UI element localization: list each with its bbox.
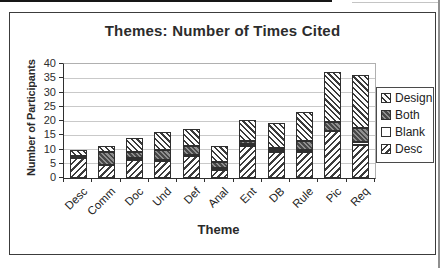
x-tick-label-def: Def bbox=[181, 185, 202, 206]
x-tick-label-comm: Comm bbox=[85, 185, 117, 217]
y-tick-label: 0 bbox=[32, 171, 56, 183]
bar-segment-blank-req bbox=[352, 142, 369, 146]
y-tick-mark bbox=[59, 92, 63, 93]
legend-label-both: Both bbox=[395, 109, 420, 121]
bar-segment-both-anal bbox=[211, 162, 228, 168]
bar-segment-both-rule bbox=[296, 141, 313, 150]
bar-segment-blank-anal bbox=[211, 168, 228, 170]
x-tick-mark bbox=[91, 178, 92, 182]
legend-item-desc: Desc bbox=[381, 143, 433, 155]
legend-label-blank: Blank bbox=[395, 126, 425, 138]
x-tick-label-und: Und bbox=[150, 185, 173, 208]
bar-segment-desc-anal bbox=[211, 170, 228, 178]
legend-label-desc: Desc bbox=[395, 143, 422, 155]
x-tick-mark bbox=[120, 178, 121, 182]
legend-item-design: Design bbox=[381, 92, 433, 104]
bar-segment-both-def bbox=[183, 146, 200, 155]
y-tick-mark bbox=[59, 163, 63, 164]
legend-label-design: Design bbox=[395, 92, 432, 104]
bar-segment-both-pic bbox=[324, 122, 341, 131]
bar-segment-both-req bbox=[352, 128, 369, 142]
y-tick-label: 20 bbox=[32, 114, 56, 126]
y-tick-label: 25 bbox=[32, 100, 56, 112]
bar-segment-desc-und bbox=[154, 161, 171, 178]
bar-segment-design-req bbox=[352, 75, 369, 127]
bar-segment-blank-doc bbox=[126, 158, 143, 160]
bar-segment-desc-pic bbox=[324, 131, 341, 178]
x-tick-mark bbox=[148, 178, 149, 182]
y-tick-label: 35 bbox=[32, 71, 56, 83]
bar-segment-both-und bbox=[154, 150, 171, 161]
x-tick-label-ent: Ent bbox=[238, 185, 259, 206]
bar-segment-design-und bbox=[154, 132, 171, 149]
y-tick-label: 40 bbox=[32, 57, 56, 69]
bar-segment-blank-desc bbox=[70, 156, 87, 158]
y-tick-mark bbox=[59, 134, 63, 135]
x-tick-label-db: DB bbox=[267, 185, 287, 205]
y-tick-mark bbox=[59, 149, 63, 150]
legend: DesignBothBlankDesc bbox=[376, 87, 434, 163]
legend-swatch-blank bbox=[381, 127, 391, 137]
bar-segment-desc-req bbox=[352, 145, 369, 178]
bar-segment-blank-ent bbox=[239, 144, 256, 146]
bar-segment-design-def bbox=[183, 129, 200, 146]
y-tick-label: 30 bbox=[32, 86, 56, 98]
x-tick-mark bbox=[233, 178, 234, 182]
bar-segment-design-db bbox=[268, 123, 285, 147]
x-axis-title: Theme bbox=[63, 222, 374, 237]
scan-artifact-top-right-edge bbox=[352, 2, 440, 3]
x-tick-label-req: Req bbox=[348, 185, 371, 208]
bar-segment-both-db bbox=[268, 148, 285, 151]
x-tick-label-rule: Rule bbox=[290, 185, 315, 210]
bar-segment-design-anal bbox=[211, 146, 228, 162]
bar-segment-design-pic bbox=[324, 72, 341, 123]
y-tick-label: 15 bbox=[32, 128, 56, 140]
x-tick-label-anal: Anal bbox=[206, 185, 231, 210]
bar-segment-desc-def bbox=[183, 156, 200, 178]
chart-figure: Themes: Number of Times Cited Number of … bbox=[9, 12, 436, 255]
bar-segment-design-comm bbox=[98, 146, 115, 153]
bar-segment-design-desc bbox=[70, 150, 87, 157]
chart-title: Themes: Number of Times Cited bbox=[10, 22, 435, 39]
x-tick-mark bbox=[204, 178, 205, 182]
x-tick-mark bbox=[289, 178, 290, 182]
legend-item-both: Both bbox=[381, 109, 433, 121]
x-tick-mark bbox=[317, 178, 318, 182]
bar-segment-design-rule bbox=[296, 112, 313, 141]
x-tick-mark bbox=[63, 178, 64, 182]
bar-segment-desc-desc bbox=[70, 158, 87, 178]
x-tick-label-doc: Doc bbox=[123, 185, 146, 208]
bar-segment-design-doc bbox=[126, 138, 143, 152]
bar-segment-desc-doc bbox=[126, 160, 143, 178]
x-tick-mark bbox=[261, 178, 262, 182]
bar-segment-both-ent bbox=[239, 141, 256, 144]
bar-segment-both-doc bbox=[126, 152, 143, 158]
legend-swatch-desc bbox=[381, 144, 391, 154]
bar-segment-desc-rule bbox=[296, 152, 313, 179]
scan-artifact-top-edge bbox=[0, 0, 332, 2]
bar-segment-blank-rule bbox=[296, 150, 313, 152]
y-tick-mark bbox=[59, 63, 63, 64]
bar-segment-design-ent bbox=[239, 120, 256, 141]
y-tick-mark bbox=[59, 120, 63, 121]
y-tick-mark bbox=[59, 77, 63, 78]
y-tick-label: 5 bbox=[32, 157, 56, 169]
bar-segment-desc-comm bbox=[98, 165, 115, 178]
legend-swatch-both bbox=[381, 110, 391, 120]
bar-segment-desc-ent bbox=[239, 146, 256, 178]
plot-area bbox=[63, 63, 376, 179]
bar-segment-both-comm bbox=[98, 152, 115, 164]
legend-item-blank: Blank bbox=[381, 126, 433, 138]
bar-segment-desc-db bbox=[268, 152, 285, 179]
x-tick-mark bbox=[374, 178, 375, 182]
x-tick-mark bbox=[176, 178, 177, 182]
x-tick-label-pic: Pic bbox=[324, 185, 344, 205]
legend-swatch-design bbox=[381, 93, 391, 103]
x-tick-mark bbox=[346, 178, 347, 182]
y-tick-mark bbox=[59, 106, 63, 107]
y-tick-label: 10 bbox=[32, 143, 56, 155]
